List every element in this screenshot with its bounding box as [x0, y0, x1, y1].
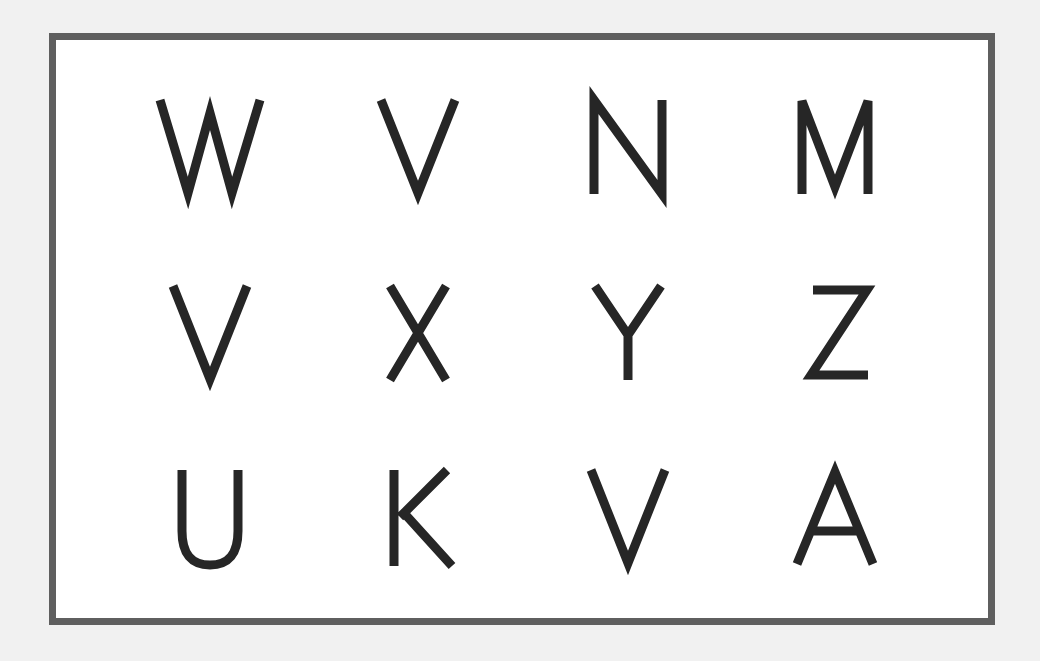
letter-r2c3: Y [558, 279, 698, 389]
letter-chart-panel: W V N M V X Y Z U K V A [49, 33, 995, 625]
letter-r3c3: V [558, 465, 698, 575]
letter-r1c4: M [765, 93, 905, 203]
letter-r1c3: N [558, 93, 698, 203]
letter-r2c1: V [140, 279, 280, 389]
letter-r2c2: X [348, 279, 488, 389]
letter-r1c1: W [140, 93, 280, 203]
letter-r3c4: A [765, 465, 905, 575]
letter-r2c4: Z [765, 279, 905, 389]
letter-r3c1: U [140, 465, 280, 575]
letter-r1c2: V [348, 93, 488, 203]
letter-r3c2: K [348, 465, 488, 575]
